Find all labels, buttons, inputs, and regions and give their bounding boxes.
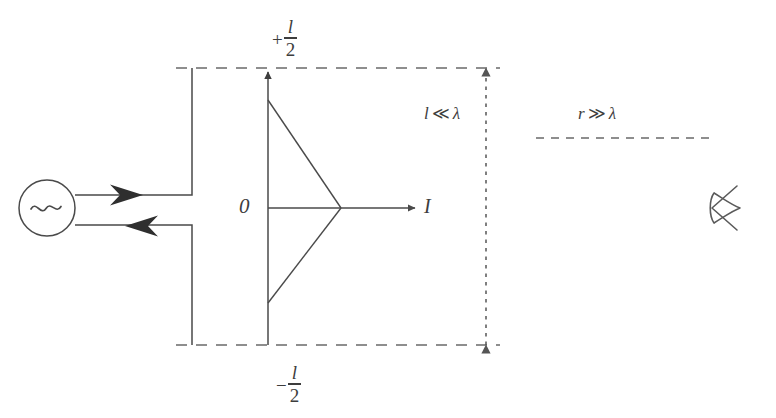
feedline-arrow-left-icon xyxy=(125,216,158,237)
ac-source-sine-symbol xyxy=(31,206,61,211)
length-condition-rhs: λ xyxy=(453,104,460,123)
label-plus-sign: + xyxy=(272,30,283,49)
label-plus-half-length: + l 2 xyxy=(272,18,297,60)
distance-condition-lhs: r xyxy=(578,104,585,123)
label-minus-sign: − xyxy=(276,376,287,395)
label-minus-half-length: − l 2 xyxy=(276,364,301,406)
antenna-diagram: + l 2 − l 2 0 I l≪λ r≫λ xyxy=(0,0,776,418)
fraction-l-over-2: l 2 xyxy=(288,363,302,405)
label-distance-condition: r≫λ xyxy=(578,105,616,122)
observer-eye-lid-icon xyxy=(714,193,740,223)
feedline-upper-conductor xyxy=(75,68,192,195)
current-profile-upper-edge xyxy=(268,100,341,208)
fraction-l-over-2: l 2 xyxy=(284,17,298,59)
fraction-denominator: 2 xyxy=(284,39,298,59)
distance-condition-rhs: λ xyxy=(609,104,616,123)
fraction-denominator: 2 xyxy=(288,385,302,405)
much-less-than-operator: ≪ xyxy=(429,104,453,123)
feedline-lower-conductor xyxy=(75,225,192,345)
diagram-canvas xyxy=(0,0,776,418)
label-length-condition: l≪λ xyxy=(424,105,460,122)
current-profile-lower-edge xyxy=(268,208,341,303)
label-origin: 0 xyxy=(239,196,250,217)
observer-eye-outer-icon xyxy=(712,186,737,230)
label-current-axis: I xyxy=(424,196,431,216)
much-greater-than-operator: ≫ xyxy=(585,104,609,123)
fraction-numerator: l xyxy=(286,17,295,37)
fraction-numerator: l xyxy=(290,363,299,383)
